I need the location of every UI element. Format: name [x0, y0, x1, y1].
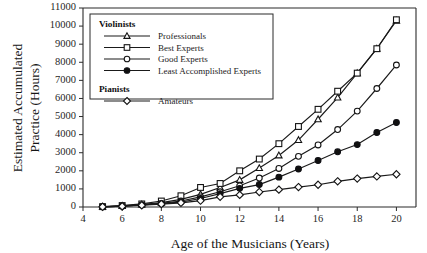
data-point	[276, 174, 282, 180]
y-tick-label: 0	[71, 200, 76, 211]
y-tick-label: 3000	[55, 146, 76, 157]
data-point	[256, 182, 262, 188]
x-tick-label: 6	[120, 213, 125, 224]
legend-entry-label[interactable]: Amateurs	[158, 96, 193, 106]
y-tick-label: 10000	[50, 19, 76, 30]
data-point	[354, 142, 360, 148]
y-tick-label: 1000	[55, 182, 76, 193]
x-tick-label: 12	[234, 213, 245, 224]
x-tick-label: 20	[391, 213, 402, 224]
x-tick-label: 10	[195, 213, 206, 224]
data-point	[335, 127, 341, 133]
x-axis-title: Age of the Musicians (Years)	[171, 236, 329, 251]
chart-legend: ViolinistsProfessionalsBest ExpertsGood …	[90, 14, 273, 106]
x-tick-label: 4	[80, 213, 86, 224]
y-tick-label: 11000	[50, 1, 76, 12]
data-point	[374, 130, 380, 136]
data-point	[315, 106, 321, 112]
y-axis-title-line1: Estimated Accumulated	[10, 43, 25, 172]
data-point	[296, 166, 302, 172]
data-point	[394, 120, 400, 126]
data-point	[335, 88, 341, 94]
y-tick-label: 9000	[55, 38, 76, 49]
legend-entry-label[interactable]: Good Experts	[158, 54, 208, 64]
y-tick-label: 8000	[55, 56, 76, 67]
data-point	[374, 86, 380, 92]
x-tick-label: 18	[352, 213, 363, 224]
data-point	[296, 153, 302, 159]
x-tick-label: 16	[313, 213, 324, 224]
data-point	[315, 158, 321, 164]
data-point	[217, 181, 223, 187]
legend-group-heading: Violinists	[99, 19, 136, 29]
data-point	[198, 185, 204, 191]
data-point	[394, 62, 400, 68]
legend-entry-label[interactable]: Professionals	[158, 31, 206, 41]
chart-canvas: Estimated Accumulated Practice (Hours) 0…	[0, 0, 427, 253]
data-point	[276, 141, 282, 147]
y-tick-label: 7000	[55, 74, 76, 85]
y-tick-label: 4000	[55, 128, 76, 139]
data-point	[256, 156, 262, 162]
legend-marker	[124, 68, 130, 74]
y-tick-label: 5000	[55, 110, 76, 121]
chart-figure: Estimated Accumulated Practice (Hours) 0…	[0, 0, 427, 253]
y-tick-label: 6000	[55, 92, 76, 103]
data-point	[335, 149, 341, 155]
legend-group-heading: Pianists	[99, 84, 130, 94]
legend-marker	[124, 45, 130, 51]
data-point	[256, 175, 262, 181]
x-tick-label: 14	[274, 213, 285, 224]
data-point	[296, 124, 302, 130]
data-point	[394, 17, 400, 23]
data-point	[315, 142, 321, 148]
legend-entry-label[interactable]: Least Accomplished Experts	[158, 66, 261, 76]
y-axis-title-line2: Practice (Hours)	[27, 64, 42, 153]
x-tick-label: 8	[159, 213, 164, 224]
data-point	[276, 166, 282, 172]
y-tick-label: 2000	[55, 164, 76, 175]
legend-entry-label[interactable]: Best Experts	[158, 43, 204, 53]
data-point	[354, 70, 360, 76]
legend-marker	[124, 56, 130, 62]
data-point	[374, 46, 380, 52]
data-point	[354, 108, 360, 114]
data-point	[237, 185, 243, 191]
data-point	[237, 168, 243, 174]
